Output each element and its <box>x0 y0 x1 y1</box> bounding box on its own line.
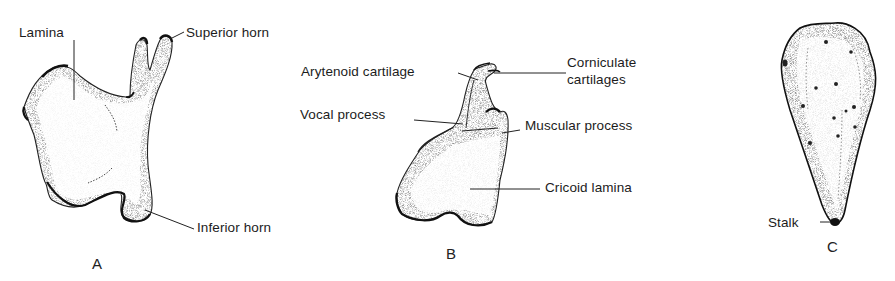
label-arytenoid-cartilage: Arytenoid cartilage <box>301 64 415 79</box>
panel-letter-c: C <box>827 238 838 255</box>
label-cricoid-lamina: Cricoid lamina <box>545 180 632 195</box>
label-stalk: Stalk <box>768 215 799 230</box>
label-muscular-process: Muscular process <box>525 118 632 133</box>
arytenoid-cricoid-drawing <box>396 63 566 225</box>
label-corniculate-line1: Corniculate <box>567 55 636 70</box>
panel-letter-b: B <box>446 245 456 262</box>
panel-letter-a: A <box>92 255 102 272</box>
label-inferior-horn: Inferior horn <box>197 220 271 235</box>
anatomy-illustration <box>0 0 895 281</box>
label-vocal-process: Vocal process <box>300 107 385 122</box>
label-lamina: Lamina <box>19 25 64 40</box>
label-superior-horn: Superior horn <box>186 25 269 40</box>
epiglottis-drawing <box>781 23 875 226</box>
label-corniculate-line2: cartilages <box>567 72 626 87</box>
thyroid-cartilage-drawing <box>23 32 194 229</box>
